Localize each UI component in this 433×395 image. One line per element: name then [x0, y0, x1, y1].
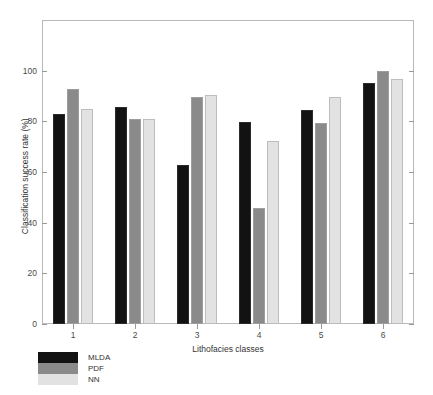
legend-label-mlda: MLDA [88, 352, 110, 363]
legend-swatch-mlda [38, 352, 78, 363]
bar-pdf-class-4 [253, 208, 266, 324]
y-axis-tick-mark [42, 172, 47, 173]
x-axis-tick-label: 6 [371, 331, 395, 340]
x-axis-tick-label: 1 [61, 331, 85, 340]
y-axis-tick-label: 0 [32, 320, 37, 329]
y-axis-tick-label: 80 [28, 117, 37, 126]
legend-label-pdf: PDF [88, 363, 104, 374]
y-axis-tick-label: 60 [28, 168, 37, 177]
bar-nn-class-1 [81, 109, 94, 324]
y-axis-tick-mark [42, 71, 47, 72]
y-axis-tick-label: 100 [23, 67, 37, 76]
bar-nn-class-6 [391, 79, 404, 324]
legend-swatch-pdf [38, 363, 78, 374]
x-axis-tick-mark [383, 324, 384, 329]
x-axis-tick-label: 3 [185, 331, 209, 340]
bar-mlda-class-2 [115, 107, 128, 324]
y-axis-tick-mark [42, 273, 47, 274]
bar-mlda-class-5 [301, 110, 314, 324]
y-axis-tick-label: 40 [28, 219, 37, 228]
y-axis-tick-mark-right [409, 71, 414, 72]
bar-pdf-class-1 [67, 89, 80, 324]
x-axis-tick-mark [321, 324, 322, 329]
y-axis-tick-mark-right [409, 223, 414, 224]
x-axis-tick-mark [135, 324, 136, 329]
x-axis-tick-mark [259, 324, 260, 329]
y-axis-tick-mark-right [409, 273, 414, 274]
x-axis-tick-label: 2 [123, 331, 147, 340]
bar-pdf-class-3 [191, 97, 204, 324]
bar-chart-figure: Lithofacies classes Classification succe… [0, 0, 433, 395]
y-axis-tick-mark-right [409, 121, 414, 122]
x-axis-tick-label: 5 [309, 331, 333, 340]
y-axis-tick-mark-right [409, 324, 414, 325]
y-axis-tick-mark [42, 121, 47, 122]
x-axis-tick-label: 4 [247, 331, 271, 340]
bar-nn-class-4 [267, 141, 280, 324]
legend: MLDA PDF NN [38, 352, 158, 386]
y-axis-tick-mark [42, 223, 47, 224]
bar-mlda-class-1 [53, 114, 66, 324]
bar-pdf-class-5 [315, 123, 328, 324]
x-axis-tick-mark [197, 324, 198, 329]
bar-pdf-class-2 [129, 119, 142, 324]
bar-nn-class-2 [143, 119, 156, 324]
x-axis-tick-mark [73, 324, 74, 329]
y-axis-tick-mark [42, 324, 47, 325]
y-axis-tick-label: 20 [28, 269, 37, 278]
bar-mlda-class-3 [177, 165, 190, 324]
plot-area [42, 20, 414, 324]
bar-nn-class-3 [205, 95, 218, 324]
bar-nn-class-5 [329, 97, 342, 324]
legend-label-nn: NN [88, 374, 100, 385]
y-axis-tick-mark-right [409, 172, 414, 173]
legend-swatch-nn [38, 374, 78, 385]
bar-mlda-class-6 [363, 83, 376, 324]
bar-mlda-class-4 [239, 122, 252, 324]
legend-swatches [38, 352, 78, 385]
bar-pdf-class-6 [377, 71, 390, 324]
